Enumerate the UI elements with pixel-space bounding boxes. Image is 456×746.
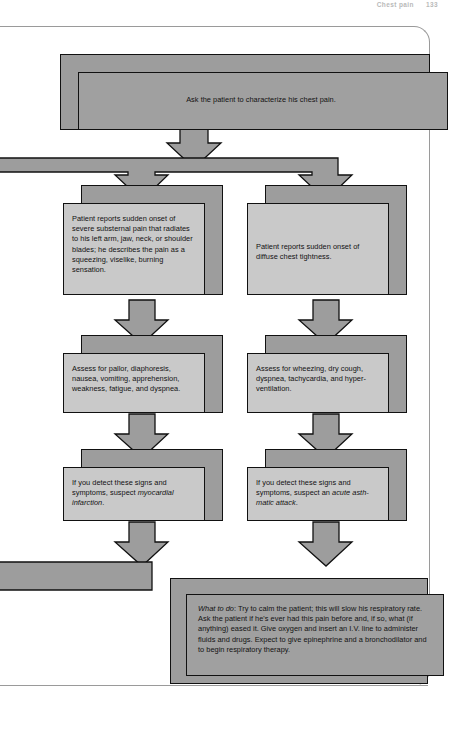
- page-canvas: Chest pain133 Ask the patient to charact…: [0, 0, 456, 746]
- what-to-do-text-italic: What to do: [198, 604, 234, 613]
- start-node-label: Ask the patient to characterize his ches…: [96, 95, 426, 105]
- what-to-do-label: What to do: Try to calm the patient; thi…: [198, 604, 430, 655]
- left-suspect-text-after: .: [102, 498, 104, 507]
- left-assess-label: Assess for pallor, diaphoresis, nausea, …: [72, 364, 198, 395]
- right-suspect-label: If you detect these signs and symptoms, …: [256, 478, 382, 509]
- page-number: 133: [426, 1, 438, 8]
- page-border-rule-bottom: [0, 684, 428, 686]
- right-assess-label: Assess for wheezing, dry cough, dyspnea,…: [256, 364, 382, 395]
- right-suspect-text-after: .: [296, 498, 298, 507]
- running-head-title: Chest pain: [377, 1, 414, 8]
- running-head: Chest pain133: [377, 1, 438, 8]
- left-branch-1-label: Patient reports sudden onset of severe s…: [72, 214, 198, 275]
- right-branch-1-label: Patient reports sudden onset of diffuse …: [256, 242, 382, 262]
- left-suspect-label: If you detect these signs and symptoms, …: [72, 478, 198, 509]
